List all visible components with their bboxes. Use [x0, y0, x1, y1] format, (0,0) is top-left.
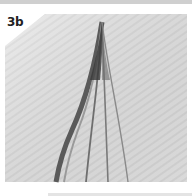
next-image-edge [48, 193, 192, 196]
step-photo [0, 0, 192, 196]
step-label: 3b [7, 15, 23, 29]
